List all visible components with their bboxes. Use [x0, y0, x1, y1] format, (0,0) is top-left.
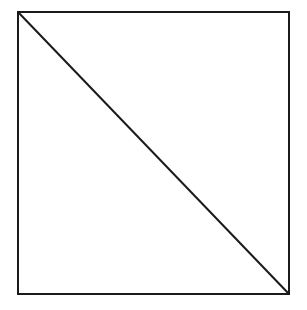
- square-with-diagonal-diagram: [0, 0, 307, 310]
- diagonal-line: [18, 12, 289, 294]
